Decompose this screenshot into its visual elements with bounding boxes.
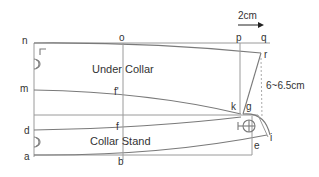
collar-pattern-diagram: 2cm 6~6.5cm Under Collar Collar Stand n … bbox=[0, 0, 319, 177]
point-q: q bbox=[261, 32, 267, 43]
point-g: g bbox=[246, 101, 252, 112]
point-e: e bbox=[254, 140, 260, 151]
point-o: o bbox=[119, 32, 125, 43]
under-collar-label: Under Collar bbox=[92, 63, 154, 75]
point-f-prime: f' bbox=[114, 86, 119, 97]
point-f: f bbox=[116, 121, 119, 132]
point-k: k bbox=[231, 101, 237, 112]
collar-stand-label: Collar Stand bbox=[90, 135, 151, 147]
dashed-measure-line bbox=[261, 58, 262, 118]
collar-stand-top-edge bbox=[34, 117, 241, 130]
under-collar-top-edge bbox=[34, 43, 261, 53]
point-r: r bbox=[264, 49, 268, 60]
corner-mark bbox=[40, 49, 46, 55]
point-a: a bbox=[24, 151, 30, 162]
collar-width-label: 6~6.5cm bbox=[266, 80, 305, 91]
under-collar-bottom-edge bbox=[34, 90, 241, 114]
point-i: i bbox=[270, 132, 272, 143]
arrow-head-icon bbox=[258, 22, 264, 28]
offset-label: 2cm bbox=[238, 10, 257, 21]
point-m: m bbox=[20, 83, 28, 94]
point-d: d bbox=[24, 125, 30, 136]
point-n: n bbox=[22, 35, 28, 46]
point-b: b bbox=[118, 156, 124, 167]
point-p: p bbox=[236, 32, 242, 43]
